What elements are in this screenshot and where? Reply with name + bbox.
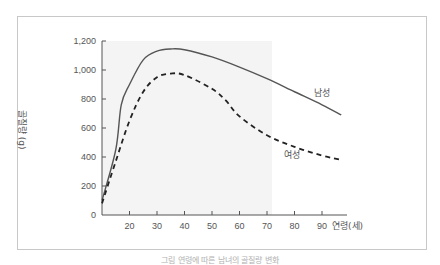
y-tick-label: 400 (81, 152, 96, 162)
x-tick-label: 60 (234, 221, 244, 231)
y-tick-label: 1,200 (73, 36, 96, 46)
y-tick-label: 0 (91, 210, 96, 220)
x-axis-title: 연령(세) (332, 220, 363, 231)
figure-caption: 그림 연령에 따른 남녀의 골질량 변화 (0, 254, 440, 265)
y-tick-label: 600 (81, 123, 96, 133)
male-label: 남성 (314, 88, 330, 98)
x-tick-label: 90 (317, 221, 327, 231)
x-tick-label: 80 (289, 221, 299, 231)
x-tick-label: 70 (262, 221, 272, 231)
y-axis-title: 골질량 (g) (15, 110, 29, 170)
y-tick-label: 800 (81, 94, 96, 104)
x-tick-label: 40 (179, 221, 189, 231)
series-labels: 남성여성 (284, 88, 330, 160)
female-label: 여성 (284, 149, 300, 160)
y-tick-label: 200 (81, 181, 96, 191)
plot-background (102, 41, 272, 215)
x-tick-label: 20 (124, 221, 134, 231)
y-tick-label: 1,000 (73, 65, 96, 75)
x-tick-label: 30 (152, 221, 162, 231)
x-tick-label: 50 (207, 221, 217, 231)
